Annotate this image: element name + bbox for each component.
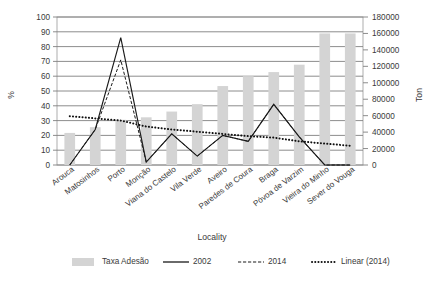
left-tick-label: 60 [41,72,51,81]
right-tick-label: 20000 [372,145,395,154]
left-tick-label: 100 [36,13,50,22]
right-tick-label: 80000 [372,95,395,104]
category-label: Sever do Vouga [305,164,356,206]
left-tick-label: 20 [41,131,51,140]
bar [319,33,330,165]
right-axis-title: Ton [414,88,424,102]
right-axis-ticks: 0200004000060000800001000001200001400001… [363,13,400,170]
right-tick-label: 160000 [372,29,400,38]
legend-label: Taxa Adesão [102,257,149,266]
category-axis-labels: AroucaMatosinhosPortoMonçãoViana do Cast… [50,164,357,211]
left-tick-label: 40 [41,102,51,111]
line-series-2014 [70,60,351,165]
bottom-axis-title: Locality [197,232,227,242]
right-tick-label: 140000 [372,46,400,55]
bar [90,127,101,165]
bar [217,86,228,165]
category-label: Porto [106,164,127,183]
left-tick-label: 50 [41,87,51,96]
bar [115,120,126,165]
left-axis-title: % [6,91,16,99]
chart-legend: Taxa Adesão20022014Linear (2014) [72,257,390,266]
legend-label: 2014 [268,257,287,266]
left-tick-label: 80 [41,43,51,52]
right-tick-label: 60000 [372,112,395,121]
chart-svg: 0102030405060708090100 02000040000600008… [0,0,436,287]
right-tick-label: 120000 [372,62,400,71]
right-tick-label: 40000 [372,128,395,137]
left-tick-label: 10 [41,146,51,155]
bar [243,76,254,165]
left-tick-label: 70 [41,57,51,66]
left-tick-label: 0 [45,161,50,170]
chart-container: 0102030405060708090100 02000040000600008… [0,0,436,287]
legend-marker-taxa-adesao [72,258,94,266]
right-tick-label: 180000 [372,13,400,22]
legend-label: 2002 [193,257,212,266]
right-tick-label: 100000 [372,79,400,88]
left-axis-ticks: 0102030405060708090100 [36,13,57,170]
legend-label: Linear (2014) [341,257,390,266]
left-tick-label: 30 [41,117,51,126]
bar [294,65,305,165]
left-tick-label: 90 [41,28,51,37]
right-tick-label: 0 [372,161,377,170]
bar [268,72,279,165]
